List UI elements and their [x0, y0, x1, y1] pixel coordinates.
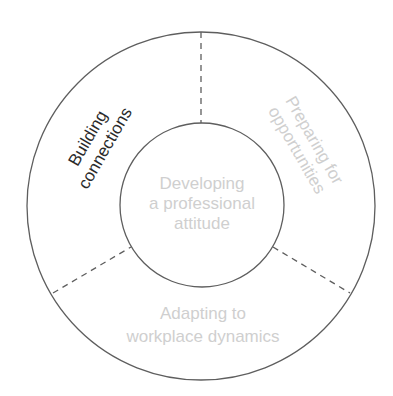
segment-label-line-1: Adapting to	[160, 304, 246, 323]
center-label: Developing a professional attitude	[149, 174, 255, 233]
center-label-line-1: Developing	[159, 174, 244, 193]
divider-lower-left	[53, 247, 131, 293]
center-label-line-2: a professional	[149, 194, 255, 213]
divider-lower-right	[273, 247, 350, 293]
center-label-line-3: attitude	[174, 214, 230, 233]
ring-diagram: Developing a professional attitude Build…	[0, 0, 393, 396]
segment-label-adapting-to-workplace-dynamics: Adapting to workplace dynamics	[125, 304, 279, 346]
segment-label-line-2: workplace dynamics	[125, 327, 279, 346]
segment-label-preparing-for-opportunities: Preparing for opportunities	[264, 93, 347, 198]
